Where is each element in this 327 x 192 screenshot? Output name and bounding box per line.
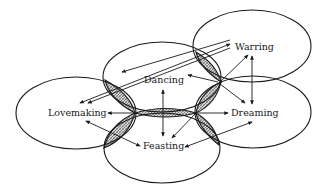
label-lovemaking: Lovemaking (48, 107, 107, 118)
label-warring: Warring (235, 41, 274, 52)
label-feasting: Feasting (143, 140, 184, 151)
relation-arrows (80, 40, 252, 147)
label-dreaming: Dreaming (231, 107, 279, 118)
activity-ellipses (16, 10, 311, 183)
overlap-dancing-lovemaking (105, 80, 135, 113)
overlap-dreaming-feasting (196, 113, 219, 145)
label-dancing: Dancing (144, 74, 184, 85)
arrow-dreaming-center (220, 84, 245, 103)
social-activities-diagram: Warring Dancing Lovemaking Dreaming Feas… (0, 0, 327, 192)
